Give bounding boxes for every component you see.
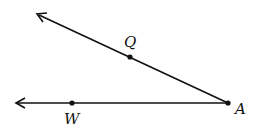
angle-diagram: Q W A (0, 0, 262, 132)
angle-figure (0, 0, 262, 132)
label-w: W (64, 110, 79, 128)
label-q: Q (124, 33, 136, 51)
ray-aq (39, 15, 228, 103)
label-a: A (235, 100, 246, 118)
point-q (127, 54, 132, 59)
point-w (69, 100, 74, 105)
point-a (225, 100, 230, 105)
